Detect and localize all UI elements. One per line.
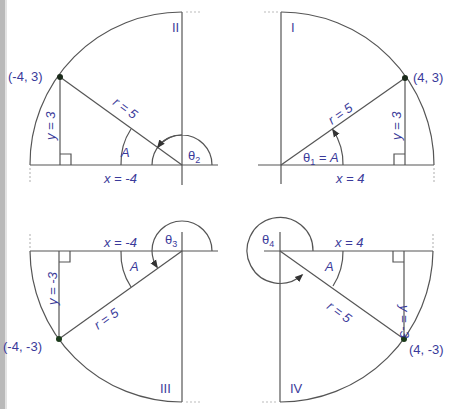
- ref-angle-arc-iv: [333, 251, 343, 286]
- theta-label-i: θ1 = A: [303, 150, 339, 167]
- radius-line-iii: [59, 251, 182, 339]
- theta-label-iv: θ4: [262, 232, 274, 249]
- x-label-iii: x = -4: [103, 235, 137, 250]
- circle-arc-i: [281, 12, 434, 165]
- r-label-iv: r = 5: [324, 298, 355, 326]
- quadrant-label-iv: IV: [290, 381, 303, 396]
- y-label-ii: y = 3: [43, 111, 58, 141]
- x-label-ii: x = -4: [103, 171, 137, 186]
- point-label-iv: (4, -3): [409, 342, 444, 357]
- ref-angle-label-iii: A: [129, 259, 139, 274]
- point-label-ii: (-4, 3): [8, 69, 43, 84]
- x-label-iv: x = 4: [334, 235, 364, 250]
- r-label-ii: r = 5: [110, 94, 141, 122]
- circle-arc-ii: [30, 12, 182, 165]
- y-label-iii: y = -3: [45, 271, 60, 306]
- right-angle-mark-i: [394, 154, 405, 165]
- theta-label-iii: θ3: [165, 232, 177, 249]
- right-angle-mark-iii: [59, 251, 70, 262]
- quadrant-label-iii: III: [160, 381, 171, 396]
- ref-angle-label-iv: A: [324, 259, 334, 274]
- theta2-arrow: [158, 135, 182, 147]
- right-angle-mark-ii: [60, 154, 71, 165]
- r-label-iii: r = 5: [91, 305, 122, 333]
- x-label-i: x = 4: [335, 171, 365, 186]
- point-i: [402, 75, 408, 81]
- point-ii: [57, 74, 63, 80]
- quadrant-diagram: II (-4, 3) x = -4 y = 3 r = 5 A θ2 I (4,…: [0, 0, 451, 409]
- radius-line-i: [281, 78, 405, 165]
- quadrant-ii: II (-4, 3) x = -4 y = 3 r = 5 A θ2: [8, 12, 218, 186]
- point-label-i: (4, 3): [413, 70, 443, 85]
- quadrant-iv: IV (4, -3) x = 4 y = -3 r = 5 A θ4: [247, 217, 444, 402]
- quadrant-label-i: I: [291, 20, 295, 35]
- quadrant-i: I (4, 3) x = 4 y = 3 r = 5 θ1 = A: [258, 12, 443, 186]
- quadrant-label-ii: II: [172, 20, 179, 35]
- point-label-iii: (-4, -3): [3, 339, 42, 354]
- y-label-iv: y = -3: [397, 304, 412, 339]
- quadrant-iii: III (-4, -3) x = -4 y = -3 r = 5 A θ3: [3, 221, 218, 402]
- right-angle-mark-iv: [393, 251, 404, 262]
- ref-angle-label-ii: A: [120, 145, 130, 160]
- point-iii: [56, 336, 62, 342]
- y-label-i: y = 3: [389, 111, 404, 141]
- theta-label-ii: θ2: [188, 148, 200, 165]
